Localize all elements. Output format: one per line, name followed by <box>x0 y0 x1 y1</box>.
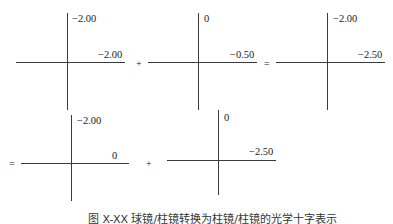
cross-2-vertical-power: 0 <box>204 13 209 24</box>
cross-1-vertical-power: −2.00 <box>72 13 96 24</box>
cross-5-horizontal-meridian <box>167 160 276 161</box>
cross-3-horizontal-power: −2.50 <box>358 49 382 60</box>
cross-1-horizontal-power: −2.00 <box>98 49 122 60</box>
figure-caption: 图 X-XX 球镜/柱镜转换为柱镜/柱镜的光学十字表示 <box>88 213 337 224</box>
cross-2-horizontal-meridian <box>148 62 257 63</box>
cross-2-horizontal-power: −0.50 <box>230 49 254 60</box>
cross-5-horizontal-power: −2.50 <box>249 146 273 157</box>
cross-4-horizontal-meridian <box>21 163 129 164</box>
plus-operator: + <box>136 59 142 69</box>
plus-operator-row2: + <box>146 159 152 169</box>
equals-operator-row2: = <box>9 159 15 169</box>
cross-4-vertical-meridian <box>71 115 72 201</box>
cross-5-vertical-meridian <box>218 110 219 195</box>
cross-4-horizontal-power: 0 <box>112 150 117 161</box>
cross-1-horizontal-meridian <box>16 62 125 63</box>
equals-operator: = <box>264 59 270 69</box>
cross-4-vertical-power: −2.00 <box>77 115 101 126</box>
cross-5-vertical-power: 0 <box>224 112 229 123</box>
cross-3-horizontal-meridian <box>276 62 385 63</box>
cross-3-vertical-power: −2.00 <box>333 13 357 24</box>
